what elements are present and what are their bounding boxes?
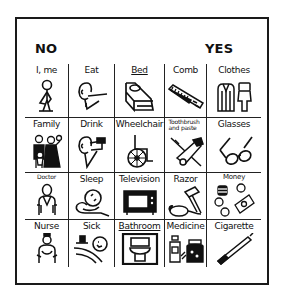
- cell-label: Comb: [173, 65, 198, 75]
- toothbrush-icon: [165, 131, 206, 172]
- cell-i-me[interactable]: I, me: [25, 64, 68, 117]
- board-row-3: Doctor Sleep Television Razor: [25, 173, 261, 220]
- cell-sleep[interactable]: Sleep: [68, 173, 114, 219]
- cell-drink[interactable]: Drink: [68, 118, 114, 172]
- cell-glasses[interactable]: Glasses: [206, 118, 261, 172]
- bed-icon: [115, 75, 164, 117]
- cigarette-icon: [207, 231, 261, 267]
- cell-label: Family: [33, 119, 60, 129]
- glasses-icon: [207, 129, 261, 172]
- cell-eat[interactable]: Eat: [68, 64, 114, 117]
- symbol-grid: I, me Eat Bed Comb: [25, 64, 261, 267]
- cell-razor[interactable]: Razor: [164, 173, 206, 219]
- comb-icon: [165, 75, 206, 117]
- razor-icon: [165, 184, 206, 219]
- clothes-icon: [207, 75, 261, 117]
- person-eating-icon: [69, 75, 114, 117]
- person-drinking-icon: [69, 129, 114, 172]
- yes-label[interactable]: YES: [205, 41, 233, 56]
- cell-wheelchair[interactable]: Wheelchair: [114, 118, 164, 172]
- cell-clothes[interactable]: Clothes: [206, 64, 261, 117]
- cell-label: Eat: [85, 65, 99, 75]
- cell-cigarette[interactable]: Cigarette: [206, 220, 261, 267]
- cell-doctor[interactable]: Doctor: [25, 173, 68, 219]
- wheelchair-icon: [115, 129, 164, 172]
- cell-label: Bed: [131, 65, 148, 75]
- cell-nurse[interactable]: Nurse: [25, 220, 68, 267]
- person-self-icon: [25, 75, 68, 117]
- cell-bed[interactable]: Bed: [114, 64, 164, 117]
- cell-television[interactable]: Television: [114, 173, 164, 219]
- medicine-icon: [165, 231, 206, 267]
- communication-board: NO YES I, me Eat Bed: [15, 17, 269, 285]
- board-row-2: Family Drink Wheelchair Toothbrush and p…: [25, 118, 261, 173]
- cell-family[interactable]: Family: [25, 118, 68, 172]
- board-row-4: Nurse Sick Bathroom Medicine: [25, 220, 261, 267]
- cell-bathroom[interactable]: Bathroom: [114, 220, 164, 267]
- cell-label: Sick: [83, 221, 100, 231]
- cell-label: Sleep: [80, 174, 104, 184]
- toilet-icon: [115, 231, 164, 267]
- cell-comb[interactable]: Comb: [164, 64, 206, 117]
- cell-label: Toothbrush and paste: [169, 119, 203, 131]
- cell-label: Television: [119, 174, 160, 184]
- sleep-icon: [69, 184, 114, 219]
- cell-toothbrush[interactable]: Toothbrush and paste: [164, 118, 206, 172]
- cell-label: Bathroom: [119, 221, 161, 231]
- cell-label: Drink: [80, 119, 103, 129]
- cell-label: Wheelchair: [116, 119, 164, 129]
- television-icon: [115, 184, 164, 219]
- sick-in-bed-icon: [69, 231, 114, 267]
- money-icon: [207, 180, 261, 219]
- nurse-icon: [25, 231, 68, 267]
- cell-label: Cigarette: [215, 221, 254, 231]
- cell-label: Medicine: [167, 221, 205, 231]
- cell-sick[interactable]: Sick: [68, 220, 114, 267]
- family-icon: [25, 129, 68, 172]
- cell-label: Nurse: [34, 221, 59, 231]
- cell-label: Glasses: [218, 119, 251, 129]
- cell-label: Razor: [173, 174, 197, 184]
- cell-label: Clothes: [218, 65, 250, 75]
- cell-label: I, me: [36, 65, 57, 75]
- no-label[interactable]: NO: [35, 41, 57, 56]
- board-row-1: I, me Eat Bed Comb: [25, 64, 261, 118]
- cell-money[interactable]: Money: [206, 173, 261, 219]
- doctor-icon: [25, 180, 68, 219]
- cell-medicine[interactable]: Medicine: [164, 220, 206, 267]
